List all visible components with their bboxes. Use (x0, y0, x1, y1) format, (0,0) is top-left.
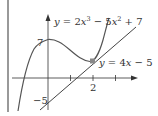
x-axis-arrow-icon (131, 76, 138, 81)
graph-figure: 7 −5 2 y = 2x3 − 5x2 + 7 y = 4x − 5 (0, 0, 158, 116)
x-tick-label-2: 2 (90, 82, 96, 93)
y-tick-label-neg5: −5 (33, 95, 48, 106)
y-axis-arrow-icon (46, 14, 51, 21)
y-tick-label-7: 7 (37, 37, 43, 48)
line-equation-label: y = 4x − 5 (98, 57, 153, 68)
tangency-point (90, 59, 95, 64)
curve-equation-label: y = 2x3 − 5x2 + 7 (53, 15, 143, 27)
tangent-line (40, 27, 136, 110)
cubic-curve (18, 18, 109, 111)
